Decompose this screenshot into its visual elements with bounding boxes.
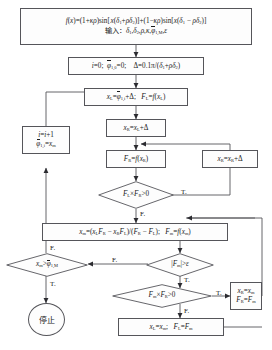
- assign-right-line1: xR=xm: [238, 287, 255, 296]
- decision-fm-epsilon-label: |Fm|>ε: [146, 253, 214, 277]
- xm-text: xm=(xLFR − xRFL)/(FR − FL); Fm=f(xm): [79, 228, 191, 237]
- decision-fl-fr: FL×FR>0: [98, 181, 174, 209]
- edge-label-flfr-true: T.: [181, 188, 187, 196]
- formula-input-line: 输入：δ1,δ2,ρ,κ,φ1,M,ε: [105, 26, 167, 36]
- decision-fm-fr-label: Fm×FR>0: [112, 284, 212, 308]
- node-xm-secant: xm=(xLFR − xRFL)/(FR − FL); Fm=f(xm): [42, 223, 228, 241]
- node-increment: i=i+1 φ1,i=xm: [22, 126, 70, 154]
- decision-xm-gt-phi: xm>φ1,M: [6, 253, 88, 277]
- edge-label-fmfr-false: F.: [184, 307, 189, 315]
- decision-fm-fr: Fm×FR>0: [112, 284, 212, 308]
- fr-text: FR=f(xR): [124, 155, 148, 164]
- node-stop-terminator: 停止: [28, 303, 65, 336]
- xr-step-text: xR=xR+Δ: [217, 155, 242, 164]
- decision-fl-fr-label: FL×FR>0: [98, 181, 174, 209]
- increment-line2: φ1,i=xm: [36, 140, 55, 149]
- increment-line1: i=i+1: [38, 131, 54, 140]
- stop-text: 停止: [39, 314, 55, 325]
- node-init: i=0; φ1,0=0; Δ=0.1π/(δ1+ρδ2): [68, 57, 204, 75]
- edge-label-xm-gt-true: T.: [50, 280, 56, 288]
- init-text: i=0; φ1,0=0; Δ=0.1π/(δ1+ρδ2): [92, 62, 180, 71]
- node-fr-eval: FR=f(xR): [106, 150, 166, 168]
- node-assign-left: xL=xm; FL=Fm: [118, 318, 224, 336]
- xr-text: xR=xL+Δ: [124, 124, 149, 133]
- node-xr-assign: xR=xL+Δ: [106, 119, 166, 137]
- node-xr-step: xR=xR+Δ: [202, 150, 258, 168]
- edge-label-fm-eps-true: T.: [184, 276, 190, 284]
- xl-text: xL=φ1,i+Δ; FL=f(xL): [107, 93, 166, 102]
- assign-right-line2: FR=Fm: [236, 296, 255, 305]
- formula-line: f(x)=(1+κρ)sin[ x(δ1+ρδ2)]+(1−κρ)sin[x(δ…: [66, 17, 207, 26]
- node-formula-input: f(x)=(1+κρ)sin[ x(δ1+ρδ2)]+(1−κρ)sin[x(δ…: [20, 8, 252, 45]
- node-assign-right: xR=xm FR=Fm: [230, 282, 262, 310]
- node-xl-assign: xL=φ1,i+Δ; FL=f(xL): [84, 88, 188, 106]
- edge-label-fm-eps-false: F.: [112, 256, 117, 264]
- decision-xm-gt-phi-label: xm>φ1,M: [6, 253, 88, 277]
- edge-label-flfr-false: F.: [140, 210, 145, 218]
- edge-label-xm-gt-false: F.: [50, 244, 55, 252]
- decision-fm-epsilon: |Fm|>ε: [146, 253, 214, 277]
- assign-left-text: xL=xm; FL=Fm: [149, 323, 192, 332]
- edge-label-fmfr-true: T.: [216, 289, 222, 297]
- input-label: 输入: [105, 26, 119, 35]
